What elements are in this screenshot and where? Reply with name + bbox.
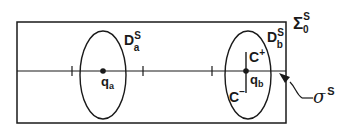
arrow-head-icon [279,73,290,83]
label-curve-minus: C− [229,86,245,105]
label-sigma-frame: ΣS0 [293,11,310,35]
label-point-q-a: qa [101,74,115,91]
label-disk-a: DSa [124,30,141,53]
label-point-q-b: qb [250,72,264,89]
disk-b-ellipse [225,31,271,119]
point-q-a [100,68,106,74]
label-sigma-axis: σS [313,85,335,107]
diagram-canvas: DSa DSb ΣS0 qa qb C+ C− σS [0,0,347,130]
sigma-leader-line [290,82,302,98]
label-curve-plus: C+ [249,47,265,65]
label-disk-b: DSb [267,27,284,50]
